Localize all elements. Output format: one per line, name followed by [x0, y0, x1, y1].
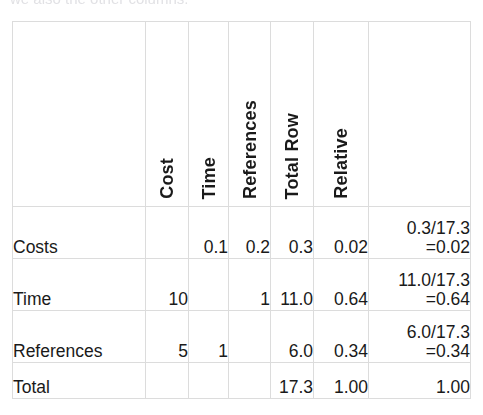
cell-costs-total-row: 0.3 [271, 207, 314, 259]
calc-line-2: 1.00 [369, 378, 470, 398]
cell-time-references: 1 [229, 259, 271, 311]
cell-references-total-row: 6.0 [271, 311, 314, 363]
cell-time-total-row: 11.0 [271, 259, 314, 311]
cell-references-calculation: 6.0/17.3 =0.34 [369, 311, 471, 363]
row-label-references: References [13, 311, 146, 363]
matrix-table-container: Cost Time References Total Row Relative … [12, 21, 470, 398]
header-label-references: References [241, 100, 259, 199]
header-cell-relative: Relative [314, 22, 369, 207]
header-cell-calculation [369, 22, 471, 207]
header-cell-references: References [229, 22, 271, 207]
row-label-total: Total [13, 363, 146, 399]
cell-total-relative: 1.00 [314, 363, 369, 399]
table-row: References 5 1 6.0 0.34 6.0/17.3 =0.34 [13, 311, 471, 363]
cell-time-cost: 10 [146, 259, 189, 311]
cell-costs-relative: 0.02 [314, 207, 369, 259]
cell-total-cost [146, 363, 189, 399]
cell-costs-calculation: 0.3/17.3 =0.02 [369, 207, 471, 259]
calc-line-1: 6.0/17.3 [369, 323, 470, 343]
cell-costs-time: 0.1 [189, 207, 229, 259]
cell-total-calculation: 1.00 [369, 363, 471, 399]
cell-costs-references: 0.2 [229, 207, 271, 259]
header-cell-total-row: Total Row [271, 22, 314, 207]
header-label-cost: Cost [158, 158, 176, 199]
pairwise-comparison-matrix: Cost Time References Total Row Relative … [12, 21, 471, 399]
cell-total-total-row: 17.3 [271, 363, 314, 399]
calc-line-2: =0.02 [369, 238, 470, 258]
cell-time-calculation: 11.0/17.3 =0.64 [369, 259, 471, 311]
cell-references-references [229, 311, 271, 363]
header-cell-cost: Cost [146, 22, 189, 207]
calc-line-2: =0.34 [369, 342, 470, 362]
row-label-time: Time [13, 259, 146, 311]
cell-costs-cost [146, 207, 189, 259]
calc-line-2: =0.64 [369, 290, 470, 310]
header-label-relative: Relative [332, 128, 350, 199]
table-row: Costs 0.1 0.2 0.3 0.02 0.3/17.3 =0.02 [13, 207, 471, 259]
cell-references-time: 1 [189, 311, 229, 363]
cut-off-caption-text: we also the other columns. [10, 0, 350, 7]
header-label-time: Time [200, 157, 218, 200]
cell-references-relative: 0.34 [314, 311, 369, 363]
cell-references-cost: 5 [146, 311, 189, 363]
cell-total-time [189, 363, 229, 399]
header-cell-corner [13, 22, 146, 207]
cell-total-references [229, 363, 271, 399]
table-row-total: Total 17.3 1.00 1.00 [13, 363, 471, 399]
calc-line-1: 0.3/17.3 [369, 219, 470, 239]
calc-line-1: 11.0/17.3 [369, 271, 470, 291]
cell-time-time [189, 259, 229, 311]
header-cell-time: Time [189, 22, 229, 207]
header-label-total-row: Total Row [283, 113, 301, 199]
row-label-costs: Costs [13, 207, 146, 259]
table-row: Time 10 1 11.0 0.64 11.0/17.3 =0.64 [13, 259, 471, 311]
table-header-row: Cost Time References Total Row Relative [13, 22, 471, 207]
cell-time-relative: 0.64 [314, 259, 369, 311]
